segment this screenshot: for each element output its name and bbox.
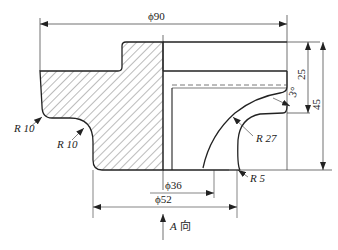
angle-leader (273, 98, 290, 106)
hatched-section (40, 42, 163, 170)
dim-label-25: 25 (295, 69, 307, 81)
angle-label: 3° (286, 85, 301, 98)
radius-label-r10-left: R 10 (13, 122, 35, 134)
dim-label-90: ϕ90 (148, 10, 165, 22)
dim-label-52: ϕ52 (155, 193, 172, 205)
drawing-canvas: ϕ90 25 45 3° R 10 R 10 R 27 R 5 ϕ36 ϕ52 … (0, 0, 338, 250)
dim-label-45: 45 (310, 99, 322, 111)
radius-label-r5: R 5 (249, 172, 265, 184)
radius-label-r10-inner: R 10 (56, 138, 78, 150)
right-half-outline (163, 42, 287, 170)
view-label-text: 向 (180, 219, 191, 232)
section-drawing: ϕ90 25 45 3° R 10 R 10 R 27 R 5 ϕ36 ϕ52 … (0, 0, 338, 250)
leader-r27 (233, 117, 253, 136)
radius-label-r27: R 27 (255, 132, 277, 144)
dim-label-36: ϕ36 (165, 179, 182, 191)
view-label-letter: A (169, 220, 177, 232)
leader-r5 (238, 170, 248, 177)
